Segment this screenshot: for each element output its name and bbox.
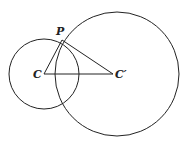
- segment-CP: [44, 40, 62, 74]
- two-intersecting-circles-diagram: P C C′: [0, 0, 181, 147]
- label-C-prime: C′: [115, 68, 127, 81]
- label-C: C: [33, 68, 42, 81]
- segment-PC-prime: [62, 40, 113, 74]
- label-P: P: [55, 25, 65, 38]
